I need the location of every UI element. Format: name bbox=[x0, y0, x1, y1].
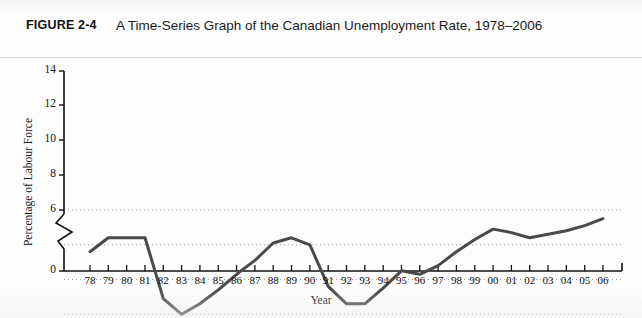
y-axis-tick-label: 12 bbox=[30, 97, 56, 109]
y-axis-tick-label: 10 bbox=[30, 132, 56, 144]
chart-container: Percentage of Labour Force Year 06810121… bbox=[0, 58, 642, 318]
figure-header: FIGURE 2-4 A Time-Series Graph of the Ca… bbox=[0, 6, 642, 56]
y-axis-tick-label: 0 bbox=[30, 263, 56, 275]
y-axis-tick-label: 14 bbox=[30, 63, 56, 75]
figure-title: A Time-Series Graph of the Canadian Unem… bbox=[116, 16, 616, 36]
x-axis-ticks-group bbox=[90, 265, 603, 271]
x-axis-tick-label: 06 bbox=[592, 274, 614, 286]
y-axis-break-zigzag bbox=[56, 214, 72, 271]
y-axis-tick-label: 6 bbox=[30, 202, 56, 214]
axes-group bbox=[56, 71, 622, 271]
figure-page: FIGURE 2-4 A Time-Series Graph of the Ca… bbox=[0, 0, 642, 318]
figure-number-label: FIGURE 2-4 bbox=[26, 18, 97, 32]
y-axis-tick-label: 8 bbox=[30, 167, 56, 179]
